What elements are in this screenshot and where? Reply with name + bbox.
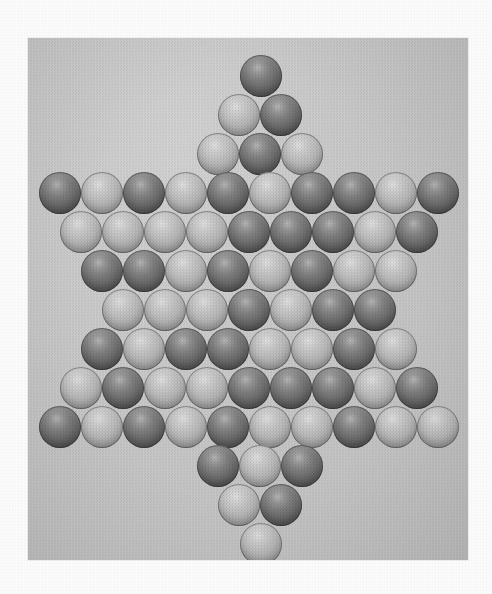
marble[interactable] [312,211,354,253]
marble[interactable] [312,289,354,331]
marble[interactable] [165,406,207,448]
marble-body [291,172,333,214]
marble[interactable] [165,250,207,292]
marble-body [270,289,312,331]
marble[interactable] [60,211,102,253]
marble[interactable] [144,211,186,253]
marble[interactable] [39,172,81,214]
marble[interactable] [312,367,354,409]
marble-body [102,211,144,253]
marble-body [165,172,207,214]
marble-body [144,367,186,409]
marble[interactable] [270,367,312,409]
marble[interactable] [81,406,123,448]
marble[interactable] [123,406,165,448]
marble[interactable] [186,211,228,253]
marble[interactable] [102,211,144,253]
marble[interactable] [354,211,396,253]
marble[interactable] [186,367,228,409]
marble[interactable] [228,211,270,253]
marble[interactable] [270,211,312,253]
marble[interactable] [102,367,144,409]
marble[interactable] [218,94,260,136]
marble[interactable] [354,367,396,409]
marble[interactable] [39,406,81,448]
marble[interactable] [375,328,417,370]
marble[interactable] [144,289,186,331]
marble-body [165,328,207,370]
marble[interactable] [239,133,281,175]
marble[interactable] [333,250,375,292]
marble[interactable] [291,250,333,292]
marble-body [39,406,81,448]
marble[interactable] [291,172,333,214]
marble[interactable] [186,289,228,331]
marble[interactable] [144,367,186,409]
marble[interactable] [228,289,270,331]
marble[interactable] [249,328,291,370]
marble[interactable] [81,172,123,214]
marble[interactable] [291,328,333,370]
marble[interactable] [218,484,260,526]
marble[interactable] [249,250,291,292]
marble[interactable] [165,172,207,214]
marble[interactable] [123,250,165,292]
marble[interactable] [354,289,396,331]
marble[interactable] [291,406,333,448]
marble[interactable] [240,523,282,560]
marble[interactable] [60,367,102,409]
marble[interactable] [81,250,123,292]
marble-body [354,289,396,331]
marble-body [186,367,228,409]
marble[interactable] [207,250,249,292]
marble[interactable] [197,133,239,175]
chinese-checkers-board[interactable] [28,38,468,560]
marble-body [186,289,228,331]
marble[interactable] [240,55,282,97]
marble[interactable] [396,211,438,253]
marble[interactable] [165,328,207,370]
marble[interactable] [281,133,323,175]
marble-body [375,406,417,448]
marble-body [81,328,123,370]
marble[interactable] [123,172,165,214]
marble[interactable] [333,172,375,214]
marble[interactable] [207,328,249,370]
marble-body [186,211,228,253]
marble[interactable] [249,172,291,214]
marble-body [249,250,291,292]
marble[interactable] [207,406,249,448]
marble[interactable] [197,445,239,487]
marble[interactable] [239,445,281,487]
marble-body [123,406,165,448]
marble[interactable] [375,172,417,214]
marble-body [123,328,165,370]
marble[interactable] [270,289,312,331]
marble-body [260,484,302,526]
marble-body [375,172,417,214]
marble-body [207,328,249,370]
marble-body [291,406,333,448]
marble[interactable] [417,172,459,214]
marble[interactable] [260,484,302,526]
marble[interactable] [123,328,165,370]
marble-body [281,445,323,487]
marble[interactable] [249,406,291,448]
marble[interactable] [333,328,375,370]
marble[interactable] [228,367,270,409]
marble-body [228,289,270,331]
marble[interactable] [417,406,459,448]
marble-body [207,250,249,292]
marble[interactable] [102,289,144,331]
marble-body [144,211,186,253]
marble[interactable] [207,172,249,214]
marble[interactable] [281,445,323,487]
marble-body [165,250,207,292]
marble[interactable] [396,367,438,409]
marble-body [228,211,270,253]
marble[interactable] [81,328,123,370]
marble[interactable] [375,406,417,448]
marble[interactable] [375,250,417,292]
marble[interactable] [333,406,375,448]
marble[interactable] [260,94,302,136]
